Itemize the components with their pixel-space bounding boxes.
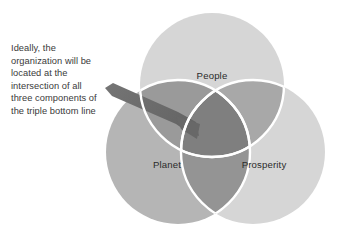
caption-line-2: organization will be <box>11 55 119 68</box>
caption-line-1: Ideally, the <box>11 42 119 55</box>
venn-diagram-figure: People Planet Prosperity Ideally, the or… <box>0 0 347 245</box>
caption-line-5: three components of <box>11 92 119 105</box>
label-prosperity: Prosperity <box>242 159 287 170</box>
caption-line-6: the triple bottom line <box>11 105 119 118</box>
label-people: People <box>197 70 228 81</box>
venn-diagram-canvas: People Planet Prosperity <box>0 0 347 245</box>
label-planet: Planet <box>153 159 181 170</box>
caption-line-4: intersection of all <box>11 80 119 93</box>
intersection-note: Ideally, the organization will be locate… <box>11 42 119 118</box>
caption-line-3: located at the <box>11 67 119 80</box>
